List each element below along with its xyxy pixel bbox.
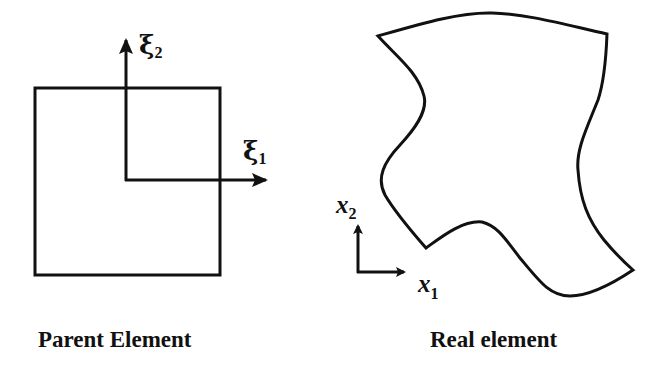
x2-label: x2 — [335, 191, 357, 222]
xi2-label: ξ2 — [139, 30, 162, 61]
real-element: x2 x1 Real element — [335, 13, 633, 352]
parent-element: ξ2 ξ1 Parent Element — [35, 30, 266, 352]
real-element-outline — [378, 13, 633, 296]
xi1-label: ξ1 — [243, 136, 266, 167]
x1-label: x1 — [417, 270, 439, 302]
diagram-canvas: ξ2 ξ1 Parent Element x2 x1 Real element — [0, 0, 672, 369]
parent-element-caption: Parent Element — [38, 327, 192, 352]
real-element-caption: Real element — [430, 327, 557, 352]
